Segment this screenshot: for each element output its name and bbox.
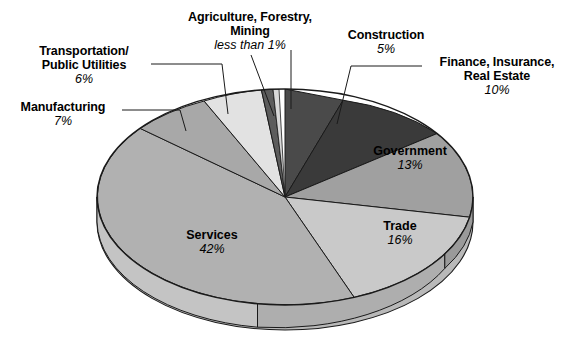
label-construction: Construction 5% — [321, 28, 451, 56]
label-trade-percent: 16% — [362, 233, 438, 247]
pie-chart-figure: Transportation/ Public Utilities 6% Manu… — [0, 0, 579, 349]
label-agriculture: Agriculture, Forestry, Mining less than … — [150, 10, 350, 52]
label-finance-line1: Finance, Insurance, — [418, 55, 576, 69]
label-manufacturing-line1: Manufacturing — [4, 100, 122, 114]
label-finance: Finance, Insurance, Real Estate 10% — [418, 55, 576, 97]
label-manufacturing-percent: 7% — [4, 114, 122, 128]
label-transportation-line1: Transportation/ — [14, 44, 154, 58]
label-agriculture-line1: Agriculture, Forestry, — [150, 10, 350, 24]
label-government-percent: 13% — [355, 158, 465, 172]
label-finance-line2: Real Estate — [418, 69, 576, 83]
label-government: Government 13% — [355, 144, 465, 173]
label-transportation-percent: 6% — [14, 72, 154, 86]
label-transportation: Transportation/ Public Utilities 6% — [14, 44, 154, 86]
label-government-line1: Government — [355, 144, 465, 158]
label-services: Services 42% — [164, 228, 260, 257]
label-trade-line1: Trade — [362, 219, 438, 233]
label-construction-line1: Construction — [321, 28, 451, 42]
pie-top-face — [97, 89, 472, 305]
label-manufacturing: Manufacturing 7% — [4, 100, 122, 128]
label-agriculture-line2: Mining — [150, 24, 350, 38]
label-finance-percent: 10% — [418, 83, 576, 97]
label-construction-percent: 5% — [321, 42, 451, 56]
label-agriculture-percent: less than 1% — [150, 38, 350, 52]
label-services-percent: 42% — [164, 242, 260, 256]
label-transportation-line2: Public Utilities — [14, 58, 154, 72]
label-services-line1: Services — [164, 228, 260, 242]
label-trade: Trade 16% — [362, 219, 438, 248]
